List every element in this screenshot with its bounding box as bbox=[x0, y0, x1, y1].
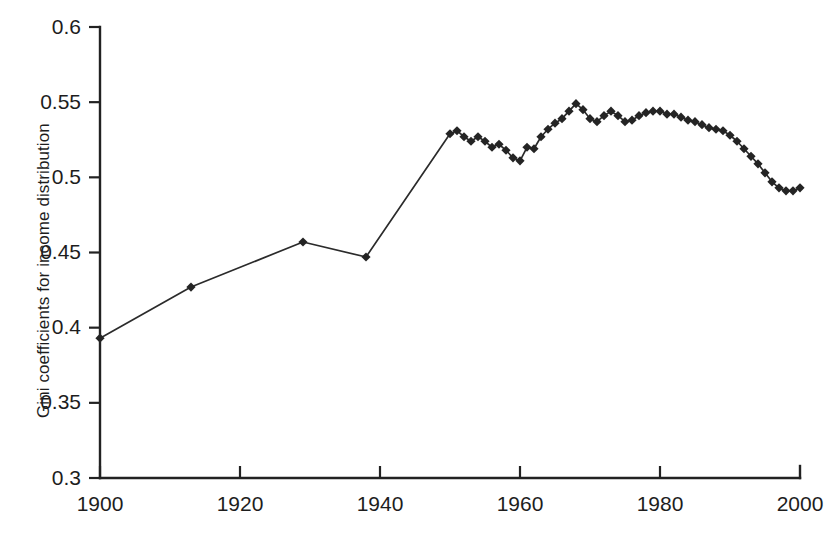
x-tick-label-group: 190019201940196019802000 bbox=[77, 492, 824, 515]
y-tick-label: 0.4 bbox=[52, 315, 82, 338]
y-tick-marks bbox=[89, 27, 100, 478]
x-tick-marks bbox=[100, 466, 660, 478]
data-marker-group bbox=[95, 99, 804, 343]
data-point-marker bbox=[529, 144, 538, 153]
y-axis-title: Gini coefficients for income distributio… bbox=[34, 123, 54, 418]
data-point-marker bbox=[627, 116, 636, 125]
y-tick-label: 0.6 bbox=[52, 15, 81, 38]
y-tick-label: 0.55 bbox=[40, 90, 81, 113]
x-tick-label: 1940 bbox=[357, 492, 404, 515]
chart-canvas: 0.30.350.40.450.50.550.6 190019201940196… bbox=[0, 0, 839, 558]
data-point-marker bbox=[522, 143, 531, 152]
data-point-marker bbox=[186, 282, 195, 291]
x-tick-label: 1900 bbox=[77, 492, 124, 515]
y-tick-label: 0.5 bbox=[52, 165, 81, 188]
data-line-gini bbox=[100, 104, 800, 339]
y-tick-label: 0.3 bbox=[52, 466, 81, 489]
data-point-marker bbox=[473, 132, 482, 141]
x-tick-label: 1920 bbox=[217, 492, 264, 515]
data-point-marker bbox=[466, 137, 475, 146]
x-tick-label: 1980 bbox=[637, 492, 684, 515]
x-tick-label: 1960 bbox=[497, 492, 544, 515]
gini-line-chart: 0.30.350.40.450.50.550.6 190019201940196… bbox=[0, 0, 839, 558]
data-point-marker bbox=[718, 126, 727, 135]
data-point-marker bbox=[711, 125, 720, 134]
x-tick-label: 2000 bbox=[777, 492, 824, 515]
data-point-marker bbox=[298, 237, 307, 246]
data-point-marker bbox=[606, 107, 615, 116]
data-point-marker bbox=[95, 334, 104, 343]
